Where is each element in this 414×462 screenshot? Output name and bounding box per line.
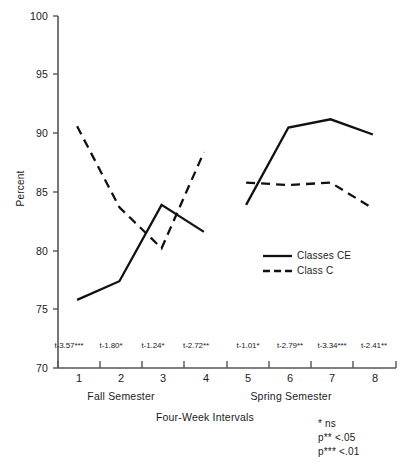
y-tick-label-70: 70 [18, 362, 48, 374]
x-tick-label-8: 8 [363, 372, 387, 384]
series-class-c-spring [246, 183, 373, 209]
series-class-c-fall [77, 126, 204, 248]
x-tick-label-5: 5 [236, 372, 260, 384]
x-tick-label-4: 4 [194, 372, 218, 384]
x-tick-label-2: 2 [109, 372, 133, 384]
legend-label-classes-ce: Classes CE [297, 250, 351, 261]
annotation-interval-4: t-2.72** [169, 341, 223, 350]
y-tick-label-90: 90 [18, 127, 48, 139]
x-tick-label-6: 6 [278, 372, 302, 384]
x-tick-label-1: 1 [67, 372, 91, 384]
y-tick-label-95: 95 [18, 68, 48, 80]
y-tick-label-75: 75 [18, 303, 48, 315]
series-classes-ce-spring [246, 119, 373, 205]
y-tick-label-85: 85 [18, 186, 48, 198]
footnote-p05: p** <.05 [318, 432, 355, 443]
x-tick-marks [58, 361, 396, 368]
footnote-ns: * ns [318, 418, 336, 429]
series-classes-ce-fall [77, 205, 204, 300]
chart-figure: Percent 100 95 90 85 80 75 70 t-3.57*** … [0, 0, 414, 462]
x-tick-label-3: 3 [151, 372, 175, 384]
x-axis-title: Four-Week Intervals [125, 411, 285, 423]
y-tick-label-80: 80 [18, 245, 48, 257]
group-label-spring-semester: Spring Semester [231, 390, 351, 402]
legend-label-class-c: Class C [297, 265, 333, 276]
footnote-p01: p*** <.01 [318, 446, 360, 457]
group-label-fall-semester: Fall Semester [61, 390, 181, 402]
annotation-interval-8: t-2.41** [347, 341, 401, 350]
y-tick-label-100: 100 [18, 10, 48, 22]
x-tick-label-7: 7 [320, 372, 344, 384]
